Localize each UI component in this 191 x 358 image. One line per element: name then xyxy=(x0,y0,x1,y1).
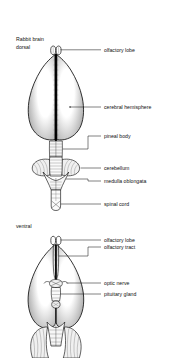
ventral-pituitary-gland xyxy=(51,288,60,309)
leader-medulla-oblongata xyxy=(66,179,101,181)
rabbit-brain-figure: Rabbit brain dorsal olfactory lobe cereb… xyxy=(0,0,191,358)
label-olfactory-lobe-dorsal: olfactory lobe xyxy=(104,47,135,53)
label-pineal-body: pineal body xyxy=(104,133,131,139)
dorsal-title-line2: dorsal xyxy=(16,44,30,50)
ventral-olfactory-lobes xyxy=(51,236,61,244)
ventral-view-group: ventral olfactory lobe olfactory tract o… xyxy=(16,223,136,358)
dorsal-left-hemisphere xyxy=(28,55,55,140)
label-olfactory-lobe-ventral: olfactory lobe xyxy=(104,237,135,243)
ventral-cerebellum-left-lobe xyxy=(31,327,49,358)
dorsal-right-hemisphere xyxy=(56,55,83,140)
label-olfactory-tract: olfactory tract xyxy=(104,244,136,250)
dorsal-view-group: Rabbit brain dorsal olfactory lobe cereb… xyxy=(16,36,151,211)
dorsal-title-line1: Rabbit brain xyxy=(16,36,44,42)
dorsal-pineal-region xyxy=(49,141,62,157)
label-cerebellum: cerebellum xyxy=(104,165,129,171)
dorsal-longitudinal-fissure xyxy=(55,54,57,140)
label-spinal-cord: spinal cord xyxy=(104,201,129,207)
ventral-cerebellum-right-lobe xyxy=(63,327,81,358)
label-pituitary-gland: pituitary gland xyxy=(104,291,136,297)
label-optic-nerve: optic nerve xyxy=(104,280,129,286)
label-medulla-oblongata: medulla oblongata xyxy=(104,178,147,184)
dorsal-olfactory-lobes xyxy=(51,46,61,55)
ventral-title: ventral xyxy=(16,223,32,229)
label-cerebral-hemisphere: cerebral hemisphere xyxy=(104,104,151,110)
